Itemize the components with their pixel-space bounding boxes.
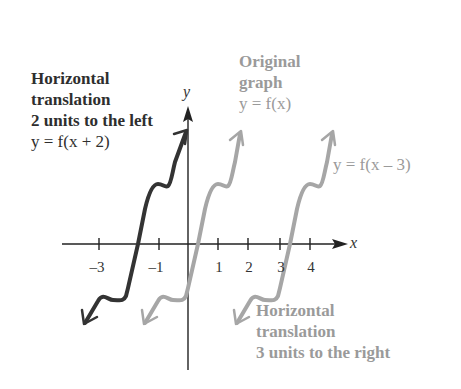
- graph-canvas: [0, 0, 461, 389]
- x-axis-label: x: [350, 234, 357, 252]
- curve-shifted-right: [234, 131, 335, 324]
- left-equation: y = f(x + 2): [31, 133, 110, 150]
- original-annotation-line1: Original: [239, 53, 300, 70]
- curve-original: [142, 131, 243, 324]
- x-tick-label: –1: [149, 259, 164, 276]
- left-annotation-line2: translation: [31, 91, 110, 108]
- x-tick-label: 4: [307, 259, 315, 276]
- x-tick-label: 1: [215, 259, 223, 276]
- curve-shifted-left: [82, 130, 187, 324]
- original-equation: y = f(x): [239, 95, 291, 112]
- right-annotation-line1: Horizontal: [256, 302, 334, 319]
- original-annotation-line2: graph: [239, 74, 282, 91]
- left-annotation-line3: 2 units to the left: [31, 112, 153, 129]
- translation-diagram: x y –3 –1 1 2 3 4 Horizontal translation…: [0, 0, 461, 389]
- x-tick-label: 3: [277, 259, 285, 276]
- right-equation: y = f(x – 3): [333, 156, 411, 173]
- y-axis-label: y: [183, 83, 190, 101]
- x-tick-label: –3: [90, 259, 105, 276]
- x-tick-label: 2: [245, 259, 253, 276]
- right-annotation-line2: translation: [256, 323, 335, 340]
- left-annotation-line1: Horizontal: [31, 70, 109, 87]
- right-annotation-line3: 3 units to the right: [256, 344, 390, 361]
